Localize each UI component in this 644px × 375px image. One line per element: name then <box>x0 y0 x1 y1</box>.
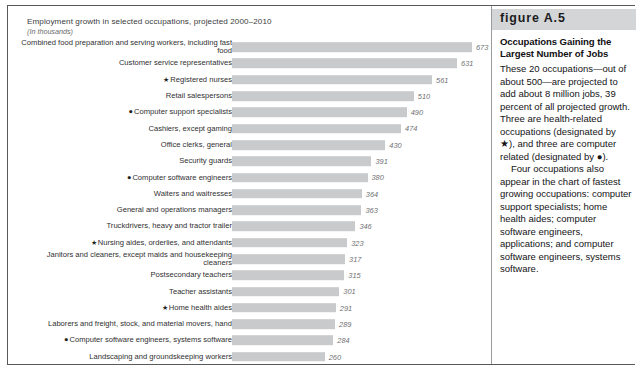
bar-value: 510 <box>418 92 430 101</box>
bar-track: 673 <box>232 42 472 52</box>
bar-row: Retail salespersons510 <box>8 88 484 104</box>
bar-track: 289 <box>232 319 335 329</box>
sidebar-body: These 20 occupations—out of about 500—ar… <box>500 63 633 276</box>
chart-title: Employment growth in selected occupation… <box>27 17 272 26</box>
bar-label: Landscaping and groundskeeping workers <box>89 353 232 361</box>
bar-fill <box>232 205 361 215</box>
bar-track: 391 <box>232 156 371 166</box>
bar-label: Teacher assistants <box>169 287 232 295</box>
bar-track: 301 <box>232 287 339 297</box>
bar-value: 391 <box>375 157 387 166</box>
bar-row: ★Home health aides291 <box>8 300 484 316</box>
bar-label: Security guards <box>179 157 232 165</box>
bar-row: Customer service representatives631 <box>8 55 484 71</box>
bar-value: 474 <box>405 124 417 133</box>
bar-label: ★Registered nurses <box>163 76 232 84</box>
dot-marker-icon: ● <box>64 335 69 344</box>
bar-fill <box>232 124 401 134</box>
bar-value: 284 <box>337 336 349 345</box>
sidebar-paragraph-2: Four occupations also appear in the char… <box>500 163 633 276</box>
bar-value: 490 <box>411 108 423 117</box>
bar-track: 284 <box>232 336 333 346</box>
bar-fill <box>232 156 371 166</box>
chart-panel: Employment growth in selected occupation… <box>8 6 484 364</box>
bar-track: 363 <box>232 205 361 215</box>
bar-label: ★Nursing aides, orderlies, and attendant… <box>91 239 232 247</box>
bar-value: 631 <box>461 59 473 68</box>
chart-subtitle: (In thousands) <box>27 27 73 36</box>
bar-label: Office clerks, general <box>161 141 232 149</box>
bar-value: 561 <box>436 75 448 84</box>
bar-fill <box>232 238 347 248</box>
bar-track: 260 <box>232 352 325 362</box>
bar-value: 301 <box>343 287 355 296</box>
bar-row: Security guards391 <box>8 153 484 169</box>
figure-frame: Employment growth in selected occupation… <box>7 5 635 365</box>
sidebar-paragraph-1: These 20 occupations—out of about 500—ar… <box>500 63 633 163</box>
bar-fill <box>232 173 368 183</box>
bar-value: 364 <box>366 189 378 198</box>
bar-row: Laborers and freight, stock, and materia… <box>8 316 484 332</box>
bar-label: Waiters and waitresses <box>154 190 232 198</box>
bar-row: Office clerks, general430 <box>8 137 484 153</box>
bar-label: Truckdrivers, heavy and tractor trailer <box>107 222 232 230</box>
bar-value: 315 <box>348 271 360 280</box>
bar-chart: Combined food preparation and serving wo… <box>8 39 484 365</box>
bar-value: 291 <box>340 303 352 312</box>
bar-fill <box>232 42 472 52</box>
bar-label: Combined food preparation and serving wo… <box>17 39 232 56</box>
sidebar-panel: figure A.5 Occupations Gaining the Large… <box>492 6 636 364</box>
bar-value: 260 <box>329 352 341 361</box>
bar-row: Cashiers, except gaming474 <box>8 120 484 136</box>
bar-value: 430 <box>389 140 401 149</box>
star-marker-icon: ★ <box>162 303 169 312</box>
bar-track: 323 <box>232 238 347 248</box>
bar-fill <box>232 108 407 118</box>
bar-label: ★Home health aides <box>162 304 232 312</box>
bar-track: 474 <box>232 124 401 134</box>
bar-fill <box>232 222 355 232</box>
bar-fill <box>232 336 333 346</box>
bar-value: 323 <box>351 238 363 247</box>
bar-fill <box>232 75 432 85</box>
bar-value: 673 <box>476 43 488 52</box>
bar-label: Laborers and freight, stock, and materia… <box>48 320 232 328</box>
bar-row: Teacher assistants301 <box>8 283 484 299</box>
bar-value: 317 <box>349 255 361 264</box>
bar-track: 510 <box>232 91 414 101</box>
bar-track: 364 <box>232 189 362 199</box>
dot-marker-icon: ● <box>127 172 132 181</box>
bar-label: ●Computer software engineers <box>127 173 232 181</box>
bar-fill <box>232 91 414 101</box>
bar-row: General and operations managers363 <box>8 202 484 218</box>
bar-fill <box>232 271 344 281</box>
bar-value: 363 <box>365 206 377 215</box>
bar-fill <box>232 59 457 69</box>
bar-label: Customer service representatives <box>119 59 232 67</box>
bar-track: 291 <box>232 303 336 313</box>
star-marker-icon: ★ <box>91 238 98 247</box>
bar-row: Janitors and cleaners, except maids and … <box>8 251 484 267</box>
bar-row: Postsecondary teachers315 <box>8 267 484 283</box>
bar-row: ●Computer support specialists490 <box>8 104 484 120</box>
bar-label: Janitors and cleaners, except maids and … <box>17 251 232 268</box>
bar-row: Combined food preparation and serving wo… <box>8 39 484 55</box>
bar-track: 317 <box>232 254 345 264</box>
bar-track: 430 <box>232 140 385 150</box>
bar-label: ●Computer support specialists <box>129 108 232 116</box>
bar-fill <box>232 303 336 313</box>
bar-row: ★Registered nurses561 <box>8 72 484 88</box>
bar-track: 380 <box>232 173 368 183</box>
bar-label: General and operations managers <box>117 206 232 214</box>
bar-row: Waiters and waitresses364 <box>8 186 484 202</box>
bar-fill <box>232 140 385 150</box>
bar-row: Truckdrivers, heavy and tractor trailer3… <box>8 218 484 234</box>
bar-track: 490 <box>232 108 407 118</box>
bar-fill <box>232 352 325 362</box>
bar-label: Cashiers, except gaming <box>148 124 232 132</box>
dot-marker-icon: ● <box>129 107 134 116</box>
bar-track: 346 <box>232 222 355 232</box>
bar-track: 561 <box>232 75 432 85</box>
bar-value: 346 <box>359 222 371 231</box>
bar-fill <box>232 319 335 329</box>
